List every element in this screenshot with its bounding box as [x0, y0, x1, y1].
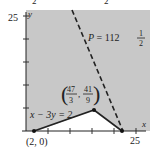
top-cut-label-right: 2: [104, 0, 109, 6]
svg-text:47: 47: [67, 85, 75, 94]
vertex-point-x-intercept: [120, 129, 124, 133]
objective-label: P = 112: [87, 32, 119, 43]
objective-frac-den: 2: [139, 39, 143, 48]
svg-text:,: ,: [78, 89, 80, 99]
svg-text:): ): [93, 81, 100, 106]
x-max-tick-label: 25: [130, 135, 140, 146]
vertex-label-2-0: (2, 0): [26, 136, 48, 148]
objective-frac-num: 1: [139, 29, 143, 38]
svg-text:9: 9: [86, 96, 90, 105]
x-axis-label: x: [141, 119, 146, 129]
lp-diagram: 2 2 25 y x 25 P = 112 1 2 x − 3y = 2 (2,…: [0, 0, 151, 152]
constraint-label: x − 3y = 2: [29, 109, 72, 120]
svg-text:3: 3: [69, 96, 73, 105]
vertex-point-47-3-41-9: [92, 108, 96, 112]
top-cut-label-left: 2: [32, 0, 37, 6]
vertex-point-2-0: [32, 129, 36, 133]
svg-text:41: 41: [84, 85, 92, 94]
y-axis-label: y: [27, 9, 32, 19]
y-max-tick-label: 25: [8, 12, 18, 23]
